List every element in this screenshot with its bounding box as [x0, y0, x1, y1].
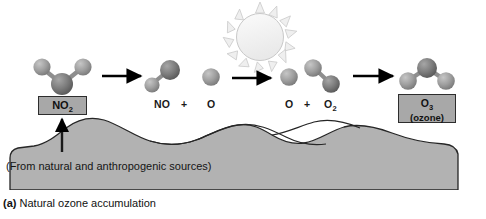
ground-landscape — [10, 118, 458, 190]
molecule-o2 — [304, 59, 340, 93]
species-label-no2-subscript: 2 — [69, 105, 73, 114]
species-label-o2: O2 — [324, 98, 337, 113]
plus-sign-2: + — [304, 98, 310, 110]
plus-sign-1: + — [181, 98, 187, 110]
figure-natural-ozone-accumulation: NO2 NO + O O + O2 O3(ozone) (From natura… — [0, 0, 486, 219]
reaction-arrows — [102, 76, 393, 78]
species-label-ozone: (ozone) — [399, 113, 455, 123]
diagram-canvas: NO2 NO + O O + O2 O3(ozone) (From natura… — [0, 0, 486, 190]
molecule-no — [144, 60, 180, 93]
ground-source-caption: (From natural and anthropogenic sources) — [6, 160, 211, 172]
figure-caption-tag: (a) — [3, 197, 16, 209]
species-label-o3-subscript: 3 — [429, 103, 433, 112]
atom-o-right — [280, 68, 298, 86]
species-label-no2-text: NO — [52, 99, 69, 111]
species-label-o2-subscript: 2 — [332, 104, 336, 113]
species-label-o-left: O — [207, 98, 215, 110]
species-label-o3: O3(ozone) — [398, 94, 456, 123]
species-label-no: NO — [154, 98, 170, 110]
species-label-no2: NO2 — [38, 96, 87, 115]
species-label-o-right: O — [285, 98, 293, 110]
molecule-o3 — [399, 58, 455, 90]
molecule-no2 — [33, 58, 91, 95]
atom-o-left — [202, 68, 220, 86]
species-label-no-text: NO — [154, 98, 170, 110]
figure-caption-text: Natural ozone accumulation — [20, 197, 156, 209]
species-label-o3-text: O — [421, 97, 429, 109]
sun-icon — [223, 2, 297, 72]
figure-caption: (a) Natural ozone accumulation — [3, 197, 156, 209]
